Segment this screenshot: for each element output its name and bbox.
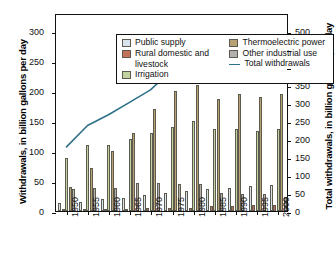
left-axis-tick: 300 bbox=[29, 27, 44, 37]
right-axis-tick: 0 bbox=[295, 207, 300, 217]
x-axis-tick: 1995 bbox=[260, 197, 270, 217]
right-axis-tick: 200 bbox=[295, 135, 310, 145]
legend-item-thermoelectric: Thermoelectric power bbox=[229, 38, 329, 48]
left-axis-tick: 100 bbox=[29, 147, 44, 157]
right-axis-tick: 50 bbox=[295, 189, 305, 199]
left-axis-tick-labels: 050100150200250300 bbox=[18, 0, 48, 256]
bar-group bbox=[58, 15, 75, 211]
x-axis-tick: 1985 bbox=[218, 197, 228, 217]
right-axis-tick: 150 bbox=[295, 153, 310, 163]
bar-group bbox=[101, 15, 118, 211]
left-axis-tick: 50 bbox=[34, 177, 44, 187]
legend-label: Irrigation bbox=[135, 70, 168, 80]
x-axis-tick: 1970 bbox=[154, 197, 164, 217]
right-axis-tick: 250 bbox=[295, 117, 310, 127]
right-axis-tick: 100 bbox=[295, 171, 310, 181]
x-axis-tick: 1965 bbox=[133, 197, 143, 217]
legend-label: Public supply bbox=[135, 38, 186, 48]
legend-item-other-industrial: Other industrial use bbox=[229, 49, 329, 59]
left-axis-tick: 250 bbox=[29, 57, 44, 67]
swatch-irrigation-icon bbox=[122, 71, 131, 79]
swatch-other-industrial-icon bbox=[229, 50, 238, 58]
legend-item-public-supply: Public supply bbox=[122, 38, 229, 48]
legend-item-total-withdrawals: Total withdrawals bbox=[229, 59, 329, 69]
legend-label-continuation: livestock bbox=[122, 59, 229, 69]
chart-figure: Withdrawals, in billion gallons per day … bbox=[0, 0, 336, 256]
swatch-thermoelectric-icon bbox=[229, 39, 238, 47]
line-total-withdrawals-icon bbox=[229, 60, 240, 68]
swatch-public-supply-icon bbox=[122, 39, 131, 47]
bar-group bbox=[79, 15, 96, 211]
swatch-rural-domestic-icon bbox=[122, 50, 131, 58]
plot-area: Public supply Rural domestic and livesto… bbox=[55, 14, 288, 212]
legend-label: Rural domestic and bbox=[135, 49, 209, 59]
legend-label: Thermoelectric power bbox=[242, 38, 325, 48]
legend-item-irrigation: Irrigation bbox=[122, 70, 229, 80]
chart-legend: Public supply Rural domestic and livesto… bbox=[116, 34, 334, 84]
x-axis-tick: 1975 bbox=[176, 197, 186, 217]
x-axis-tick: 1955 bbox=[91, 197, 101, 217]
left-axis-tick: 150 bbox=[29, 117, 44, 127]
legend-label: Total withdrawals bbox=[244, 59, 309, 69]
legend-label: Other industrial use bbox=[242, 49, 317, 59]
left-axis-tick: 0 bbox=[39, 207, 44, 217]
x-axis-tick: 1960 bbox=[112, 197, 122, 217]
bar bbox=[280, 94, 283, 211]
x-axis-tick: 1950 bbox=[70, 197, 80, 217]
left-axis-tick: 200 bbox=[29, 87, 44, 97]
x-axis-tick: 2000 bbox=[281, 197, 291, 217]
x-axis-tick: 1980 bbox=[197, 197, 207, 217]
x-axis-tick: 1990 bbox=[239, 197, 249, 217]
right-axis-tick: 300 bbox=[295, 99, 310, 109]
legend-item-rural-domestic: Rural domestic and bbox=[122, 49, 229, 59]
